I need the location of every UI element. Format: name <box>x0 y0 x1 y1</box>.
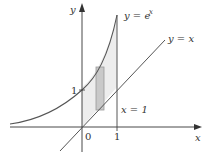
x-axis-label: x <box>195 132 201 143</box>
x-axis-arrow-icon <box>194 124 202 130</box>
area-between-curves-diagram: y x 0 1 1 y = e x y = x x = 1 <box>0 0 207 156</box>
exp-curve-label: y = e x <box>123 8 153 21</box>
svg-text:x: x <box>149 8 153 16</box>
y-axis-arrow-icon <box>79 3 85 12</box>
vertical-line-label: x = 1 <box>121 104 148 115</box>
identity-line-label: y = x <box>167 33 194 44</box>
svg-text:y = e: y = e <box>123 10 150 21</box>
y-one-label: 1 <box>71 85 77 96</box>
y-axis-label: y <box>69 4 76 15</box>
origin-label: 0 <box>85 131 91 142</box>
x-one-label: 1 <box>114 131 120 142</box>
approximating-rectangle <box>96 67 104 110</box>
